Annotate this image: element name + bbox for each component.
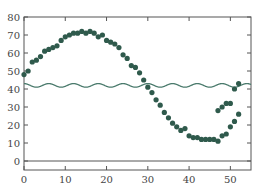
y-axis-ticks: 01020304050607080 xyxy=(7,12,251,167)
wave-line xyxy=(24,84,251,88)
data-point xyxy=(236,81,241,86)
x-tick-label: 20 xyxy=(100,174,113,185)
data-point xyxy=(166,115,171,120)
y-tick-label: 0 xyxy=(14,156,20,167)
data-point xyxy=(26,68,31,73)
y-tick-label: 80 xyxy=(7,12,20,23)
data-point xyxy=(170,121,175,126)
x-tick-label: 50 xyxy=(224,174,237,185)
data-point xyxy=(38,54,43,59)
plot-frame xyxy=(24,17,251,170)
data-point xyxy=(149,90,154,95)
data-point xyxy=(174,124,179,129)
x-axis-ticks: 01020304050 xyxy=(21,17,237,185)
data-point xyxy=(228,101,233,106)
y-tick-label: 60 xyxy=(7,48,20,59)
data-point xyxy=(145,85,150,90)
x-tick-label: 40 xyxy=(183,174,196,185)
chart: 01020304050 01020304050607080 xyxy=(0,0,257,189)
data-point xyxy=(59,38,64,43)
x-tick-label: 0 xyxy=(21,174,27,185)
data-point xyxy=(162,110,167,115)
lines xyxy=(24,84,251,88)
data-point xyxy=(215,108,220,113)
data-point xyxy=(100,32,105,37)
y-tick-label: 20 xyxy=(7,120,20,131)
data-point xyxy=(228,124,233,129)
data-point xyxy=(215,139,220,144)
data-point xyxy=(232,119,237,124)
y-tick-label: 50 xyxy=(7,66,20,77)
data-point xyxy=(220,104,225,109)
data-point xyxy=(153,97,158,102)
data-point xyxy=(137,70,142,75)
y-tick-label: 10 xyxy=(7,138,20,149)
data-point xyxy=(236,112,241,117)
data-point xyxy=(141,77,146,82)
data-point xyxy=(182,126,187,131)
y-tick-label: 40 xyxy=(7,84,20,95)
data-point xyxy=(232,86,237,91)
axes xyxy=(24,17,251,170)
data-point xyxy=(34,58,39,63)
data-point xyxy=(116,45,121,50)
data-point xyxy=(224,131,229,136)
y-tick-label: 30 xyxy=(7,102,20,113)
y-tick-label: 70 xyxy=(7,30,20,41)
data-point xyxy=(133,65,138,70)
data-point xyxy=(158,103,163,108)
data-point xyxy=(125,56,130,61)
data-point xyxy=(21,72,26,77)
data-point xyxy=(112,41,117,46)
data-point xyxy=(92,31,97,36)
x-tick-label: 10 xyxy=(59,174,72,185)
x-tick-label: 30 xyxy=(141,174,154,185)
data-point xyxy=(54,43,59,48)
data-point xyxy=(120,52,125,57)
